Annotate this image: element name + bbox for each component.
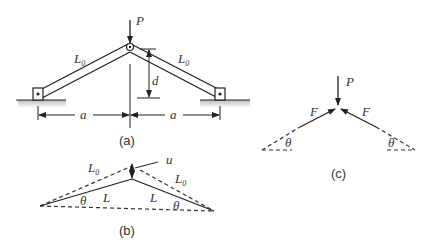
panel-c: P F F θ θ (c) [262,74,415,181]
right-force-line-ext [376,127,415,150]
right-angle-label-c: θ [388,135,395,150]
right-bar [130,44,220,98]
caption-a: (a) [119,133,135,148]
panel-b: u L0 L0 L L θ θ (b) [40,152,214,238]
right-force-arrow [341,109,376,127]
load-label-p: P [135,13,144,28]
caption-c: (c) [331,166,346,181]
rise-label-d: d [152,73,159,88]
left-bar-label: L0 [73,51,85,68]
load-label-p-c: P [345,74,354,89]
right-span-label: a [170,107,177,122]
left-bar [40,44,130,98]
right-force-label: F [361,104,371,119]
left-angle-label: θ [80,193,87,208]
right-pin-icon [218,92,221,95]
deformed-left-label: L [102,190,110,205]
u-leader-line [135,162,158,168]
left-ground [18,100,66,108]
left-pin-icon [36,92,39,95]
right-angle-label: θ [173,198,180,213]
left-force-label: F [309,104,319,119]
figure-canvas: P d L0 L0 a a (a) u [0,0,448,251]
original-left-label: L0 [87,160,99,177]
right-bar-label: L0 [177,51,189,68]
left-force-line-ext [262,127,300,150]
panel-a: P d L0 L0 a a (a) [16,13,250,148]
left-span-label: a [80,107,87,122]
caption-b: (b) [119,223,135,238]
displacement-label-u: u [166,152,173,167]
original-right-label: L0 [174,171,186,188]
base-line [40,206,214,211]
deformed-right-label: L [149,190,157,205]
left-angle-label-c: θ [285,135,292,150]
right-ground [200,100,250,108]
